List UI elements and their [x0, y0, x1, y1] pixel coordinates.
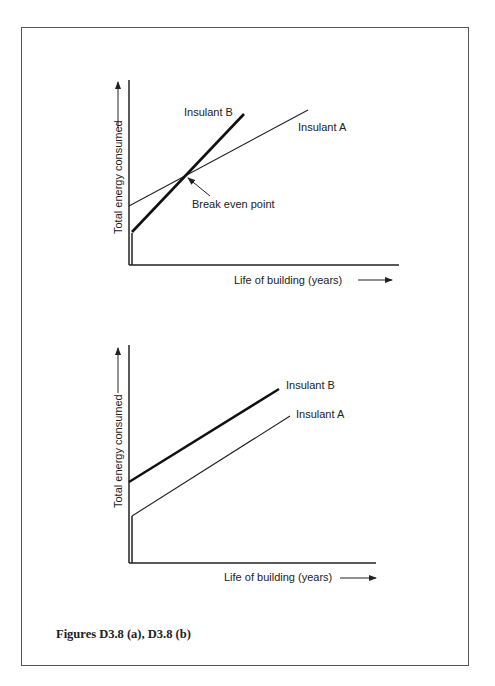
label-break-even: Break even point	[192, 198, 275, 210]
label-insulant-a: Insulant A	[296, 408, 345, 420]
label-insulant-b: Insulant B	[286, 379, 335, 391]
label-insulant-a: Insulant A	[298, 121, 347, 133]
line-insulant-b	[132, 114, 244, 232]
label-insulant-b: Insulant B	[184, 106, 233, 118]
y-axis-label: Total energy consumed	[112, 120, 124, 234]
chart-a: Insulant B Insulant A Break even point L…	[112, 80, 399, 286]
x-axis-label: Life of building (years)	[234, 274, 342, 286]
x-axis-label: Life of building (years)	[224, 571, 332, 583]
break-even-arrow	[188, 178, 210, 196]
y-axis-label: Total energy consumed	[112, 394, 124, 508]
line-insulant-b	[129, 389, 279, 482]
chart-b: Insulant B Insulant A Life of building (…	[112, 345, 376, 583]
figure-caption: Figures D3.8 (a), D3.8 (b)	[56, 627, 191, 642]
figures-svg: Insulant B Insulant A Break even point L…	[0, 0, 495, 686]
line-insulant-a	[129, 110, 308, 206]
